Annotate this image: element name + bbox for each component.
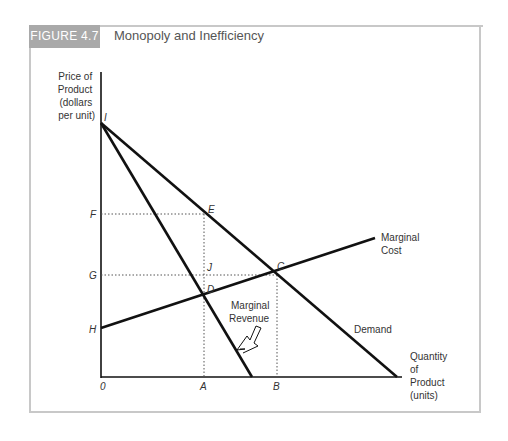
guide-lines xyxy=(101,214,277,377)
marginal-revenue-label: Marginal Revenue xyxy=(229,300,272,324)
point-e: E xyxy=(208,204,215,215)
monopoly-diagram: Price of Product (dollars per unit) Quan… xyxy=(0,0,508,441)
point-h: H xyxy=(89,324,97,335)
point-j: J xyxy=(206,262,213,273)
mr-arrow-icon xyxy=(237,326,261,353)
marginal-cost-label: Marginal Cost xyxy=(381,232,422,256)
demand-label: Demand xyxy=(354,324,392,335)
marginal-revenue-curve xyxy=(101,123,252,377)
y-axis-label: Price of Product (dollars per unit) xyxy=(58,71,95,121)
x-axis-label: Quantity of Product (units) xyxy=(410,351,450,401)
point-d: D xyxy=(207,284,214,295)
point-f: F xyxy=(90,209,97,220)
point-g: G xyxy=(89,270,97,281)
point-b: B xyxy=(273,381,280,392)
point-a: A xyxy=(199,381,207,392)
point-i: I xyxy=(104,112,107,123)
origin-label: 0 xyxy=(100,381,106,392)
point-c: C xyxy=(277,261,285,272)
